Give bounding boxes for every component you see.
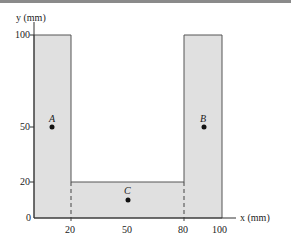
x-axis-label: x (mm) (240, 212, 270, 224)
u-shape-diagram: y (mm) x (mm) 100 50 20 0 20 50 80 100 A… (0, 0, 291, 240)
y-tick-50: 50 (20, 121, 30, 132)
point-a-label: A (48, 113, 56, 124)
point-a (50, 125, 55, 130)
point-c-label: C (124, 185, 131, 196)
y-tick-20: 20 (20, 176, 30, 187)
x-tick-50: 50 (122, 224, 132, 235)
point-c (126, 198, 131, 203)
y-tick-100: 100 (15, 29, 30, 40)
y-tick-0: 0 (26, 212, 31, 223)
y-axis-label: y (mm) (16, 12, 46, 24)
x-tick-100: 100 (212, 224, 227, 235)
point-b (202, 125, 207, 130)
x-tick-20: 20 (65, 224, 75, 235)
point-b-label: B (200, 113, 206, 124)
x-tick-80: 80 (178, 224, 188, 235)
